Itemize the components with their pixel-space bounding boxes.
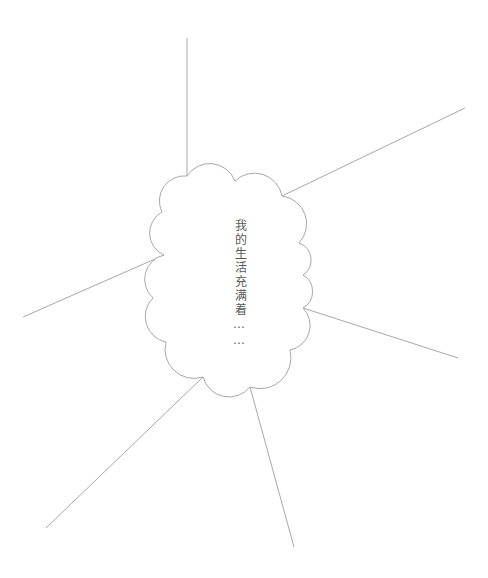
mind-map-canvas[interactable]: 我的生活充满着……	[0, 0, 488, 578]
branch-bottom-left[interactable]	[46, 377, 203, 528]
branch-top-right[interactable]	[282, 108, 465, 196]
branch-bottom-right[interactable]	[250, 387, 294, 547]
center-node-label: 我的生活充满着……	[233, 219, 245, 349]
cloud-shape[interactable]	[145, 164, 313, 397]
branch-right[interactable]	[303, 308, 458, 358]
branch-left[interactable]	[23, 255, 164, 317]
